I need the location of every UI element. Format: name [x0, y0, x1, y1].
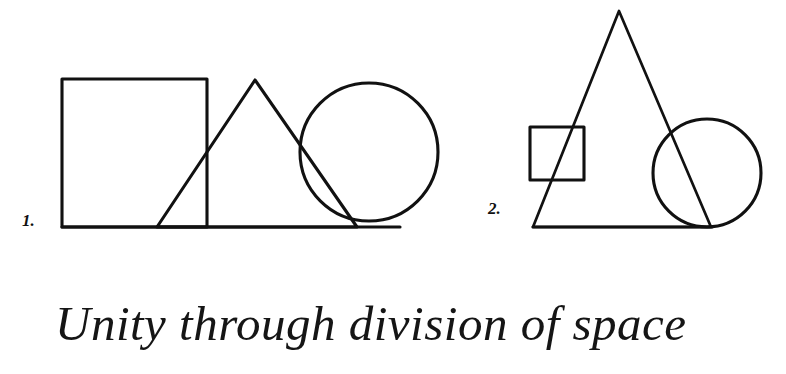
figure-one-label: 1. [22, 211, 35, 230]
diagram-canvas: 1. 2. Unity through division of space [0, 0, 786, 374]
figure-one: 1. [22, 79, 438, 230]
figure-two-triangle [533, 11, 711, 227]
figure-two: 2. [487, 11, 761, 227]
figure-two-square [530, 127, 584, 180]
figure-two-label: 2. [487, 199, 501, 218]
figure-two-circle [653, 119, 761, 227]
caption: Unity through division of space [55, 296, 687, 351]
figure-one-square [62, 79, 207, 227]
sketch-page: 1. 2. Unity through division of space [0, 0, 786, 374]
figure-one-circle [300, 83, 438, 221]
